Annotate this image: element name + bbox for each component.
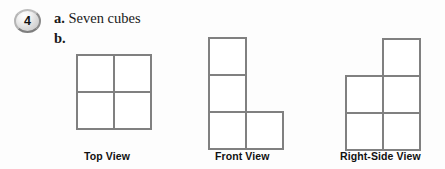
problem-number-label: 4 <box>24 15 31 28</box>
grid-cell <box>114 55 151 92</box>
part-a-marker: a. <box>54 10 65 26</box>
grid-cell <box>77 55 114 92</box>
grid-cell <box>209 75 246 112</box>
part-a-text: Seven cubes <box>69 10 141 26</box>
view-right <box>346 39 420 150</box>
grid-cell <box>114 92 151 129</box>
grid-cell <box>77 92 114 129</box>
grid-cell <box>346 113 383 150</box>
caption-front-view: Front View <box>215 150 269 162</box>
caption-right-side-view: Right-Side View <box>340 150 421 162</box>
worksheet-answer-figure: 4 a. Seven cubes b. Top View Front View … <box>0 0 445 169</box>
grid-cell <box>209 38 246 75</box>
problem-number-badge: 4 <box>14 9 41 33</box>
part-b-marker: b. <box>54 30 66 47</box>
grid-cell <box>383 113 420 150</box>
grid-cell <box>383 76 420 113</box>
grid-cell <box>383 39 420 76</box>
grid-cell <box>346 76 383 113</box>
grid-cell <box>209 112 246 149</box>
answer-part-a: a. Seven cubes <box>54 10 141 27</box>
view-top <box>77 55 151 129</box>
view-front <box>209 38 283 149</box>
grid-cell <box>246 112 283 149</box>
caption-top-view: Top View <box>84 150 130 162</box>
